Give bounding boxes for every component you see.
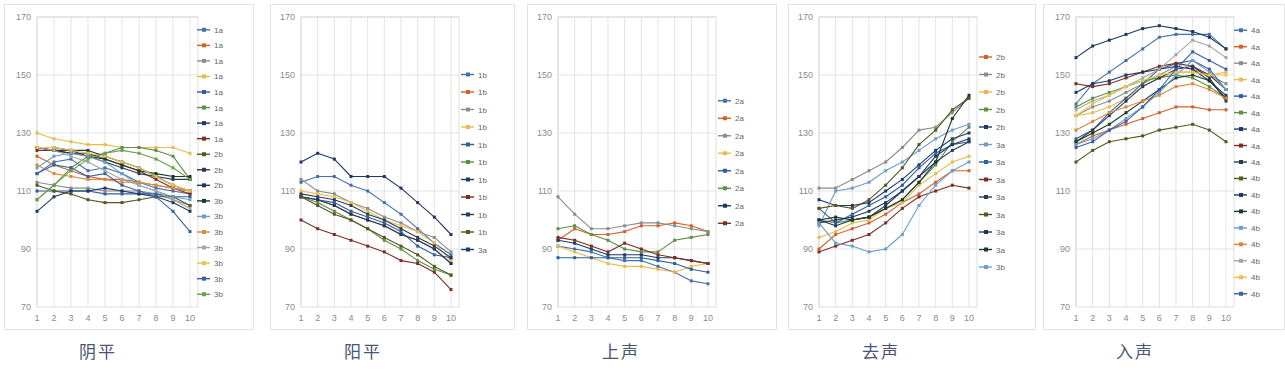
legend-label: 1b <box>478 71 487 80</box>
legend-item[interactable]: 1a <box>197 88 223 97</box>
legend-item[interactable]: 2a <box>718 97 744 106</box>
legend-item[interactable]: 1a <box>197 104 223 113</box>
legend-item[interactable]: 2a <box>718 219 744 228</box>
legend-item[interactable]: 1b <box>461 158 487 167</box>
legend-item[interactable]: 3a <box>979 158 1005 167</box>
legend-item[interactable]: 4b <box>1234 273 1260 282</box>
legend-item[interactable]: 3b <box>197 275 223 284</box>
y-tick-label: 170 <box>537 12 552 22</box>
legend-item[interactable]: 1b <box>461 176 487 185</box>
x-tick-label: 2 <box>1090 313 1095 323</box>
legend-label: 1a <box>214 119 223 128</box>
legend-item[interactable]: 1b <box>461 106 487 115</box>
legend-item[interactable]: 2a <box>718 202 744 211</box>
x-tick-label: 6 <box>119 313 124 323</box>
x-tick-label: 5 <box>102 313 107 323</box>
legend-item[interactable]: 4a <box>1234 125 1260 134</box>
y-tick-label: 110 <box>538 186 552 196</box>
legend-item[interactable]: 3a <box>979 193 1005 202</box>
series-line <box>818 97 971 190</box>
legend-label: 3b <box>214 212 223 221</box>
legend-label: 4a <box>1251 43 1260 52</box>
legend-item[interactable]: 1a <box>197 72 223 81</box>
legend-item[interactable]: 3b <box>197 259 223 268</box>
legend-item[interactable]: 4a <box>1234 142 1260 151</box>
legend-item[interactable]: 4b <box>1234 207 1260 216</box>
legend-item[interactable]: 1b <box>461 88 487 97</box>
legend-label: 4b <box>1251 207 1260 216</box>
legend-item[interactable]: 1b <box>461 71 487 80</box>
legend-item[interactable]: 3a <box>979 228 1005 237</box>
legend-item[interactable]: 2a <box>718 114 744 123</box>
legend-item[interactable]: 3a <box>979 211 1005 220</box>
legend-item[interactable]: 1a <box>197 135 223 144</box>
legend-item[interactable]: 3b <box>979 263 1005 272</box>
legend-label: 4a <box>1251 109 1260 118</box>
legend-label: 3a <box>996 211 1005 220</box>
legend-item[interactable]: 2b <box>979 106 1005 115</box>
legend-item[interactable]: 2b <box>979 53 1005 62</box>
legend-item[interactable]: 4b <box>1234 290 1260 299</box>
legend-item[interactable]: 1b <box>461 141 487 150</box>
legend-item[interactable]: 4a <box>1234 158 1260 167</box>
legend-item[interactable]: 2b <box>197 181 223 190</box>
legend-item[interactable]: 2a <box>718 149 744 158</box>
y-tick-label: 70 <box>803 302 813 312</box>
series-line <box>557 195 710 233</box>
legend-item[interactable]: 1b <box>461 211 487 220</box>
legend-item[interactable]: 3b <box>197 244 223 253</box>
legend-item[interactable]: 3b <box>197 197 223 206</box>
legend-item[interactable]: 3a <box>979 141 1005 150</box>
legend-label: 1a <box>214 26 223 35</box>
legend-item[interactable]: 1b <box>461 123 487 132</box>
legend-item[interactable]: 2b <box>197 150 223 159</box>
legend-item[interactable]: 4b <box>1234 224 1260 233</box>
legend-item[interactable]: 1a <box>197 26 223 35</box>
legend-item[interactable]: 2b <box>979 88 1005 97</box>
legend-item[interactable]: 3b <box>197 228 223 237</box>
y-tick-label: 170 <box>1055 12 1070 22</box>
legend-item[interactable]: 2b <box>197 166 223 175</box>
series-line <box>818 94 971 222</box>
legend-label: 1a <box>214 135 223 144</box>
legend-label: 1b <box>478 106 487 115</box>
x-tick-label: 4 <box>1123 313 1128 323</box>
legend-item[interactable]: 4a <box>1234 59 1260 68</box>
legend-item[interactable]: 2a <box>718 132 744 141</box>
legend-label: 2a <box>735 219 744 228</box>
legend-item[interactable]: 1a <box>197 119 223 128</box>
legend-item[interactable]: 4b <box>1234 240 1260 249</box>
x-gridlines: 12345678910 <box>1073 17 1231 323</box>
legend-label: 3b <box>214 259 223 268</box>
legend-item[interactable]: 4a <box>1234 26 1260 35</box>
legend-item[interactable]: 1a <box>197 57 223 66</box>
legend-item[interactable]: 4b <box>1234 257 1260 266</box>
x-tick-label: 8 <box>672 313 677 323</box>
x-tick-label: 1 <box>34 313 39 323</box>
legend-item[interactable]: 4b <box>1234 191 1260 200</box>
legend-item[interactable]: 4a <box>1234 109 1260 118</box>
x-gridlines: 12345678910 <box>298 17 456 323</box>
series-line <box>1075 123 1228 164</box>
legend-item[interactable]: 2a <box>718 184 744 193</box>
legend-item[interactable]: 1a <box>197 41 223 50</box>
x-tick-label: 8 <box>933 313 938 323</box>
legend-item[interactable]: 2a <box>718 167 744 176</box>
legend-item[interactable]: 4a <box>1234 92 1260 101</box>
legend-item[interactable]: 4b <box>1234 174 1260 183</box>
series-line <box>818 161 971 254</box>
y-tick-label: 110 <box>17 186 31 196</box>
legend-item[interactable]: 2b <box>979 123 1005 132</box>
x-tick-label: 10 <box>703 313 713 323</box>
legend-item[interactable]: 2b <box>979 71 1005 80</box>
legend-item[interactable]: 3b <box>197 290 223 299</box>
legend-item[interactable]: 3a <box>979 246 1005 255</box>
legend-item[interactable]: 4a <box>1234 76 1260 85</box>
legend-item[interactable]: 3a <box>461 246 487 255</box>
x-tick-label: 3 <box>68 313 73 323</box>
legend-item[interactable]: 1b <box>461 193 487 202</box>
legend-item[interactable]: 1b <box>461 228 487 237</box>
legend-item[interactable]: 3a <box>979 176 1005 185</box>
legend-item[interactable]: 4a <box>1234 43 1260 52</box>
legend-item[interactable]: 3b <box>197 212 223 221</box>
